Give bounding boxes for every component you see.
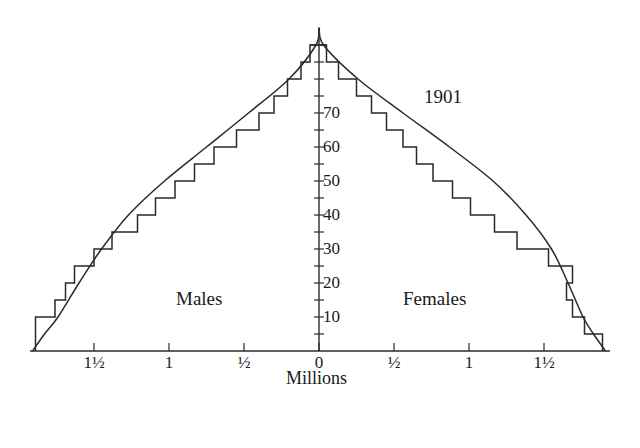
males-label: Males [176,288,222,310]
y-tick-label: 10 [323,307,340,327]
x-tick-label: 1½ [524,353,564,373]
y-tick-label: 70 [323,103,340,123]
x-tick-label: 1½ [74,353,114,373]
x-tick-label: 1 [449,353,489,373]
y-tick-label: 40 [323,205,340,225]
x-tick-label: ½ [224,353,264,373]
chart-title: 1901 [424,86,462,108]
y-tick-label: 60 [323,137,340,157]
x-axis-label: Millions [286,368,347,389]
females-label: Females [403,288,466,310]
y-tick-label: 20 [323,273,340,293]
y-tick-label: 30 [323,239,340,259]
axes [30,38,610,351]
x-tick-label: ½ [374,353,414,373]
y-tick-label: 50 [323,171,340,191]
x-tick-label: 1 [149,353,189,373]
